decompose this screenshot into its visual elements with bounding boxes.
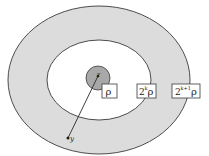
radius-box-2k1-rho: 2 k+1 ρ — [172, 84, 200, 98]
label-z: z — [96, 71, 101, 79]
annulus-diagram: z y ρ 2 k ρ 2 k+1 ρ — [0, 0, 209, 156]
svg-text:ρ: ρ — [106, 86, 112, 97]
svg-text:ρ: ρ — [148, 86, 154, 97]
radius-box-2k-rho: 2 k ρ — [137, 84, 156, 98]
radius-box-rho: ρ — [102, 84, 117, 98]
svg-text:k+1: k+1 — [181, 85, 191, 91]
svg-text:ρ: ρ — [191, 86, 197, 97]
